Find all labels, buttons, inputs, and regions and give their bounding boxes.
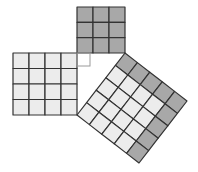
dark-cell: [109, 7, 125, 22]
light-cell: [29, 100, 45, 116]
pythagoras-diagram: [0, 0, 198, 172]
light-cell: [45, 100, 61, 116]
light-cell: [29, 69, 45, 85]
light-cell: [13, 53, 29, 69]
right-angle-marker: [77, 53, 90, 66]
light-cell: [45, 84, 61, 100]
light-cell: [13, 69, 29, 85]
square-c-5x5-hypotenuse: [77, 53, 187, 163]
dark-cell: [77, 38, 93, 53]
dark-cell: [109, 22, 125, 37]
dark-cell: [93, 7, 109, 22]
light-cell: [61, 53, 77, 69]
dark-cell: [93, 22, 109, 37]
dark-cell: [93, 38, 109, 53]
light-cell: [29, 53, 45, 69]
dark-cell: [77, 22, 93, 37]
light-cell: [13, 100, 29, 116]
square-b-4x4-light: [13, 53, 77, 115]
light-cell: [13, 84, 29, 100]
light-cell: [45, 53, 61, 69]
dark-cell: [109, 38, 125, 53]
light-cell: [61, 84, 77, 100]
square-a-3x3-dark: [77, 7, 125, 53]
dark-cell: [77, 7, 93, 22]
light-cell: [61, 69, 77, 85]
light-cell: [45, 69, 61, 85]
light-cell: [29, 84, 45, 100]
light-cell: [61, 100, 77, 116]
